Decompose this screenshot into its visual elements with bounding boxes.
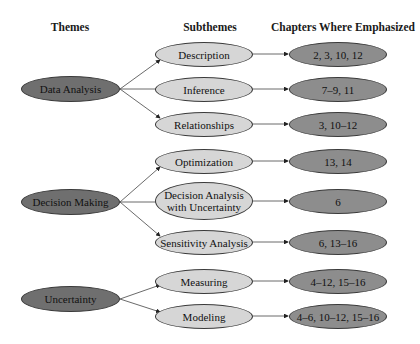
chapters-modeling: 4–6, 10–12, 15–16 <box>289 304 387 329</box>
theme-uncertainty: Uncertainty <box>21 286 120 312</box>
themes-diagram: Themes Subthemes Chapters Where Emphasiz… <box>0 0 420 344</box>
subtheme-modeling: Modeling <box>155 304 253 329</box>
subtheme-measuring: Measuring <box>155 269 253 294</box>
subtheme-relationships: Relationships <box>155 112 253 137</box>
chapters-sensitivity-analysis: 6, 13–16 <box>289 230 387 255</box>
theme-data-analysis: Data Analysis <box>21 76 120 102</box>
chapters-description: 2, 3, 10, 12 <box>289 42 387 67</box>
subtheme-sensitivity-analysis: Sensitivity Analysis <box>155 230 253 255</box>
subtheme-optimization: Optimization <box>155 149 253 174</box>
subtheme-decision-analysis-with-uncertainty: Decision Analysis with Uncertainty <box>155 182 253 220</box>
chapters-measuring: 4–12, 15–16 <box>289 269 387 294</box>
header-subthemes: Subthemes <box>183 21 237 33</box>
subtheme-description: Description <box>155 42 253 67</box>
chapters-inference: 7–9, 11 <box>289 77 387 102</box>
subtheme-inference: Inference <box>155 77 253 102</box>
header-chapters: Chapters Where Emphasized <box>271 21 415 33</box>
chapters-decision-analysis: 6 <box>289 189 387 214</box>
theme-decision-making: Decision Making <box>21 189 120 215</box>
chapters-optimization: 13, 14 <box>289 149 387 174</box>
header-themes: Themes <box>51 21 89 33</box>
chapters-relationships: 3, 10–12 <box>289 112 387 137</box>
